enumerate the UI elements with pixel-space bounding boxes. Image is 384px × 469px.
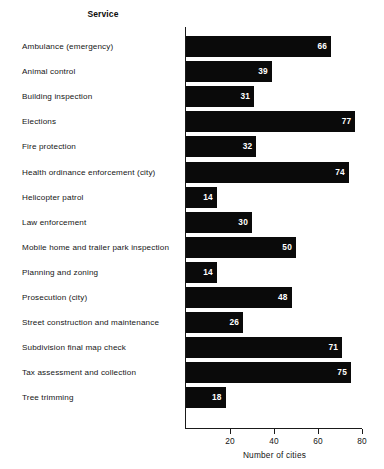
bar-category-label: Elections: [22, 111, 182, 132]
x-tick-label: 60: [303, 436, 333, 446]
bar-track: 50: [186, 237, 296, 258]
bar-track: 39: [186, 61, 272, 82]
bar-rect[interactable]: [186, 237, 296, 258]
bar-rect[interactable]: [186, 287, 292, 308]
x-axis-title: Number of cities: [186, 450, 363, 460]
x-tick-label: 20: [215, 436, 245, 446]
bar-category-label: Tax assessment and collection: [22, 362, 182, 383]
bar-row[interactable]: Planning and zoning14: [0, 262, 384, 287]
bar-rect[interactable]: [186, 362, 351, 383]
bar-rect[interactable]: [186, 111, 355, 132]
bar-track: 32: [186, 136, 256, 157]
bar-value-label: 39: [258, 61, 268, 82]
bar-track: 66: [186, 36, 331, 57]
bar-value-label: 14: [203, 187, 213, 208]
bar-category-label: Helicopter patrol: [22, 187, 182, 208]
bar-row[interactable]: Ambulance (emergency)66: [0, 36, 384, 61]
x-tick-label: 40: [259, 436, 289, 446]
bar-track: 30: [186, 212, 252, 233]
bar-value-label: 32: [243, 136, 253, 157]
bar-rect[interactable]: [186, 337, 342, 358]
bar-row[interactable]: Subdivision final map check71: [0, 337, 384, 362]
bar-row[interactable]: Tree trimming18: [0, 387, 384, 412]
bar-row[interactable]: Tax assessment and collection75: [0, 362, 384, 387]
bar-track: 31: [186, 86, 254, 107]
bar-row[interactable]: Building inspection31: [0, 86, 384, 111]
bar-value-label: 75: [337, 362, 347, 383]
bar-track: 18: [186, 387, 226, 408]
bar-row[interactable]: Law enforcement30: [0, 212, 384, 237]
bar-value-label: 31: [241, 86, 251, 107]
bar-value-label: 74: [335, 162, 345, 183]
bar-category-label: Ambulance (emergency): [22, 36, 182, 57]
horizontal-bar-chart: Service Ambulance (emergency)66Animal co…: [0, 0, 384, 469]
bar-category-label: Tree trimming: [22, 387, 182, 408]
x-tick: [318, 429, 319, 434]
bar-track: 14: [186, 262, 217, 283]
bar-category-label: Health ordinance enforcement (city): [22, 162, 182, 183]
bar-category-label: Mobile home and trailer park inspection: [22, 237, 182, 258]
bar-track: 71: [186, 337, 342, 358]
x-tick: [362, 429, 363, 434]
bar-row[interactable]: Mobile home and trailer park inspection5…: [0, 237, 384, 262]
bar-value-label: 18: [212, 387, 222, 408]
bar-value-label: 26: [230, 312, 240, 333]
bar-track: 75: [186, 362, 351, 383]
bar-category-label: Planning and zoning: [22, 262, 182, 283]
bar-category-label: Fire protection: [22, 136, 182, 157]
bar-row[interactable]: Helicopter patrol14: [0, 187, 384, 212]
bar-track: 14: [186, 187, 217, 208]
bar-rect[interactable]: [186, 162, 349, 183]
bar-row[interactable]: Prosecution (city)48: [0, 287, 384, 312]
plot-area: Ambulance (emergency)66Animal control39B…: [0, 0, 384, 469]
bar-value-label: 48: [278, 287, 288, 308]
bar-row[interactable]: Health ordinance enforcement (city)74: [0, 162, 384, 187]
bar-row[interactable]: Street construction and maintenance26: [0, 312, 384, 337]
bar-category-label: Subdivision final map check: [22, 337, 182, 358]
x-tick: [274, 429, 275, 434]
bar-value-label: 30: [238, 212, 248, 233]
bar-category-label: Law enforcement: [22, 212, 182, 233]
bar-row[interactable]: Fire protection32: [0, 136, 384, 161]
bar-value-label: 14: [203, 262, 213, 283]
bar-value-label: 77: [342, 111, 352, 132]
bar-category-label: Building inspection: [22, 86, 182, 107]
bar-value-label: 71: [329, 337, 339, 358]
bar-category-label: Prosecution (city): [22, 287, 182, 308]
bar-track: 48: [186, 287, 292, 308]
bar-row[interactable]: Animal control39: [0, 61, 384, 86]
bar-rect[interactable]: [186, 36, 331, 57]
bar-category-label: Street construction and maintenance: [22, 312, 182, 333]
bar-track: 26: [186, 312, 243, 333]
bar-value-label: 50: [282, 237, 292, 258]
x-tick: [230, 429, 231, 434]
x-tick-label: 80: [347, 436, 377, 446]
bar-category-label: Animal control: [22, 61, 182, 82]
bar-value-label: 66: [318, 36, 328, 57]
bar-track: 74: [186, 162, 349, 183]
bar-track: 77: [186, 111, 355, 132]
bar-row[interactable]: Elections77: [0, 111, 384, 136]
